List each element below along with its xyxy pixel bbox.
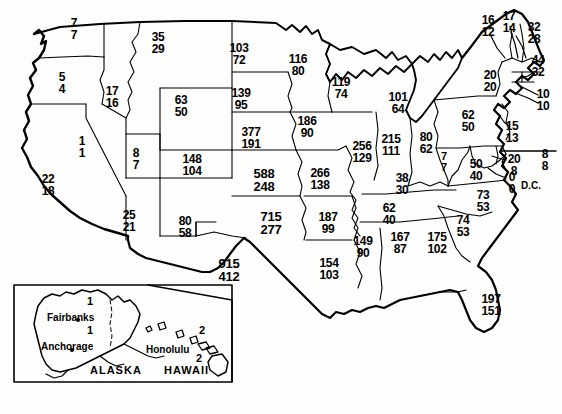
dc-annotation: D.C. <box>521 180 541 191</box>
hawaii-value-2: 2 <box>193 353 205 364</box>
value-lower: 277 <box>253 223 289 236</box>
state-label-PA: 62 50 <box>456 109 480 133</box>
value-lower: 138 <box>304 179 336 191</box>
state-label-MA: 44 32 <box>527 54 549 78</box>
state-label-UT: 8 7 <box>128 147 144 171</box>
state-label-CO: 148 104 <box>176 153 208 177</box>
value-lower: 111 <box>376 145 406 157</box>
state-label-KS: 588 248 <box>246 167 282 193</box>
value-lower: 21 <box>117 221 141 233</box>
value-lower: 412 <box>211 270 247 283</box>
value-lower: 74 <box>327 88 355 100</box>
state-label-FL: 197 151 <box>477 293 505 317</box>
value-lower: 50 <box>456 121 480 133</box>
value-lower: 90 <box>291 127 323 139</box>
value-lower: 13 <box>502 132 522 144</box>
state-label-VT: 16 12 <box>477 14 499 38</box>
value-lower: 95 <box>225 99 257 111</box>
state-label-MN: 116 80 <box>283 53 313 77</box>
state-label-OR: 5 4 <box>50 71 74 95</box>
value-lower: 53 <box>451 226 475 238</box>
state-label-AL: 167 87 <box>385 231 415 255</box>
state-label-NM: 80 58 <box>173 215 197 239</box>
state-label-MT: 35 29 <box>145 31 171 55</box>
state-label-RI-CT: 10 10 <box>532 88 554 112</box>
value-lower: 18 <box>36 185 60 197</box>
hawaii-value-1: 2 <box>196 325 208 336</box>
state-label-KY: 38 30 <box>390 172 414 196</box>
value-lower: 32 <box>527 66 549 78</box>
city-label-honolulu: Honolulu <box>146 344 189 355</box>
state-label-WA: 7 7 <box>62 17 86 41</box>
alaska-value-fairbanks: 1 <box>84 296 96 307</box>
value-lower: 30 <box>390 184 414 196</box>
state-label-NH: 17 14 <box>499 10 519 34</box>
state-label-IA: 186 90 <box>291 115 323 139</box>
state-label-DE: 8 8 <box>537 148 553 172</box>
value-lower: 14 <box>499 22 519 34</box>
value-lower: 20 <box>478 81 502 93</box>
state-label-AR: 187 99 <box>313 211 343 235</box>
state-label-NJ: 15 13 <box>502 120 522 144</box>
state-label-TN: 62 40 <box>377 202 401 226</box>
state-label-NE: 377 191 <box>235 126 267 150</box>
value-lower: 4 <box>50 83 74 95</box>
value-lower: 7 <box>437 162 451 173</box>
value-lower: 87 <box>385 243 415 255</box>
value-lower: 53 <box>471 201 495 213</box>
value-lower: 0 <box>505 183 519 195</box>
value-lower: 99 <box>313 223 343 235</box>
state-label-MI: 101 64 <box>385 91 411 115</box>
value-lower: 129 <box>346 152 378 164</box>
value-lower: 248 <box>246 180 282 193</box>
state-label-NC: 73 53 <box>471 189 495 213</box>
state-label-ID: 17 16 <box>100 85 124 109</box>
state-label-WV: 7 7 <box>437 151 451 173</box>
us-map-figure: 7 7 5 4 17 16 35 29 63 50 1 1 22 18 8 7 … <box>0 0 562 414</box>
value-lower: 40 <box>464 170 488 182</box>
value-lower: 80 <box>283 65 313 77</box>
value-lower: 72 <box>223 54 255 66</box>
state-label-SD: 139 95 <box>225 87 257 111</box>
state-label-WI: 119 74 <box>327 76 355 100</box>
state-label-CA: 22 18 <box>36 173 60 197</box>
state-label-ND: 103 72 <box>223 42 255 66</box>
value-lower: 7 <box>128 159 144 171</box>
state-label-WY: 63 50 <box>168 94 194 118</box>
state-label-MO: 266 138 <box>304 167 336 191</box>
value-lower: 102 <box>422 243 452 255</box>
value-lower: 90 <box>348 247 378 259</box>
state-label-NV: 1 1 <box>74 135 90 159</box>
state-label-IN: 215 111 <box>376 133 406 157</box>
inset-title-hawaii: HAWAII <box>164 364 209 376</box>
value-lower: 10 <box>532 100 554 112</box>
state-label-TX: 915 412 <box>211 257 247 283</box>
value-lower: 191 <box>235 138 267 150</box>
state-label-GA: 175 102 <box>422 231 452 255</box>
value-lower: 50 <box>168 106 194 118</box>
city-label-fairbanks: Fairbanks <box>47 312 94 323</box>
state-label-AZ: 25 21 <box>117 209 141 233</box>
state-label-ME: 32 28 <box>523 21 545 45</box>
value-lower: 62 <box>414 143 438 155</box>
state-label-OK: 715 277 <box>253 210 289 236</box>
inset-title-alaska: ALASKA <box>90 364 142 376</box>
value-lower: 104 <box>176 165 208 177</box>
state-label-MS: 149 90 <box>348 235 378 259</box>
city-label-anchorage: Anchorage <box>41 341 93 352</box>
state-label-DC: 0 0 <box>505 171 519 195</box>
alaska-value-anchorage: 1 <box>84 325 96 336</box>
value-lower: 103 <box>313 269 345 281</box>
value-lower: 7 <box>62 29 86 41</box>
value-lower: 64 <box>385 103 411 115</box>
value-lower: 29 <box>145 43 171 55</box>
value-lower: 40 <box>377 214 401 226</box>
value-lower: 16 <box>100 97 124 109</box>
value-lower: 8 <box>537 160 553 172</box>
state-label-LA: 154 103 <box>313 257 345 281</box>
state-label-OH: 80 62 <box>414 131 438 155</box>
state-label-NY: 20 20 <box>478 69 502 93</box>
value-lower: 28 <box>523 33 545 45</box>
value-lower: 1 <box>74 147 90 159</box>
value-lower: 58 <box>173 227 197 239</box>
